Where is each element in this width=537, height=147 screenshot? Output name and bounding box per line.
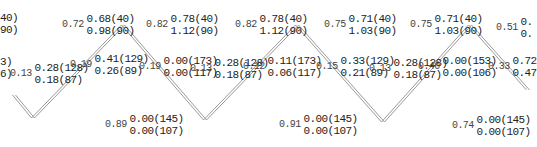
label-top-3: 0.820.78(40)1.12(90) [235, 13, 308, 37]
value-line-2: 0.00(107) [130, 125, 184, 137]
label-top-6: 0.510.0. [496, 16, 533, 40]
label-mid-4a: 0.400.00(153)0.00(106) [418, 55, 497, 79]
ratio-value: 0.33 [488, 61, 510, 73]
value-line-2: 0. [521, 28, 533, 40]
value-pair: 0.68(40)0.98(90) [87, 13, 135, 37]
label-top-2: 0.820.78(40)1.12(90) [146, 13, 219, 37]
value-pair: 40)90) [0, 12, 18, 36]
value-line-2: 0.98(90) [87, 25, 135, 37]
value-line-1: 0.00(145) [130, 113, 184, 125]
ratio-value: 0.75 [410, 19, 432, 31]
value-line-2: 1.03(90) [349, 25, 397, 37]
value-line-2: 0.47 [513, 67, 537, 79]
label-top-5: 0.750.71(40)1.03(90) [410, 13, 483, 37]
value-pair: 0.00(145)0.00(107) [304, 113, 358, 137]
label-top-4: 0.750.71(40)1.03(90) [324, 13, 397, 37]
ratio-value: 0.91 [279, 119, 301, 131]
value-line-2: 1.12(90) [260, 25, 308, 37]
ratio-value: 0.19 [70, 59, 92, 71]
ratio-value: 0.82 [235, 19, 257, 31]
value-line-1: 0.00(145) [304, 113, 358, 125]
value-line-2: 0.06(117) [268, 67, 322, 79]
label-edge-left-top: 40)90) [0, 12, 18, 36]
label-mid-4b: 0.330.720.47 [488, 55, 537, 79]
value-pair: 0.00(145)0.00(107) [130, 113, 184, 137]
value-line-1: 0.71(40) [435, 13, 483, 25]
value-line-1: 0.00(145) [477, 114, 531, 126]
ratio-value: 0.19 [139, 61, 161, 73]
value-line-1: 0.78(40) [260, 13, 308, 25]
ratio-value: 0.13 [190, 63, 212, 75]
value-line-1: 0.68(40) [87, 13, 135, 25]
value-line-1: 0.11(173) [268, 55, 322, 67]
ratio-value: 0.82 [146, 19, 168, 31]
ratio-value: 0.75 [324, 19, 346, 31]
ratio-value: 0.89 [105, 119, 127, 131]
ratio-value: 0.13 [10, 68, 32, 80]
value-pair: 0.00(145)0.00(107) [477, 114, 531, 138]
ratio-value: 0.72 [62, 19, 84, 31]
value-pair: 0.0. [521, 16, 533, 40]
ratio-value: 0.51 [496, 22, 518, 34]
label-mid-2b: 0.120.11(173)0.06(117) [243, 55, 322, 79]
ratio-value: 0.74 [452, 120, 474, 132]
value-pair: 0.78(40)1.12(90) [171, 13, 219, 37]
value-line-2: 90) [0, 24, 18, 36]
value-line-2: 0.00(107) [477, 126, 531, 138]
ratio-value: 0.12 [243, 61, 265, 73]
value-line-1: 0.72 [513, 55, 537, 67]
value-line-1: 0. [521, 16, 533, 28]
value-line-1: 0.71(40) [349, 13, 397, 25]
label-bottom-3: 0.740.00(145)0.00(107) [452, 114, 531, 138]
value-line-2: 1.03(90) [435, 25, 483, 37]
value-pair: 0.78(40)1.12(90) [260, 13, 308, 37]
ratio-value: 0.15 [316, 61, 338, 73]
value-line-2: 1.12(90) [171, 25, 219, 37]
label-top-1: 0.720.68(40)0.98(90) [62, 13, 135, 37]
value-pair: 0.720.47 [513, 55, 537, 79]
label-bottom-2: 0.910.00(145)0.00(107) [279, 113, 358, 137]
value-pair: 0.71(40)1.03(90) [435, 13, 483, 37]
value-pair: 0.71(40)1.03(90) [349, 13, 397, 37]
value-pair: 0.11(173)0.06(117) [268, 55, 322, 79]
value-line-1: 40) [0, 12, 18, 24]
ratio-value: 0.40 [418, 61, 440, 73]
ratio-value: 0.13 [369, 63, 391, 75]
label-mid-1a: 0.190.41(129)0.26(89) [70, 53, 149, 77]
value-line-2: 0.00(107) [304, 125, 358, 137]
value-line-1: 0.78(40) [171, 13, 219, 25]
label-bottom-1: 0.890.00(145)0.00(107) [105, 113, 184, 137]
